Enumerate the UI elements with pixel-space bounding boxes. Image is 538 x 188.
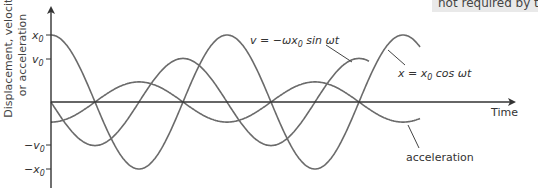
displacement-annotation: x = x0 cos ωt bbox=[388, 50, 472, 82]
acceleration-label: acceleration bbox=[406, 151, 474, 164]
displacement-equation: x = x0 cos ωt bbox=[397, 67, 472, 82]
tick-label-neg-v0: −v0 bbox=[24, 139, 45, 154]
displacement-leader-line bbox=[388, 50, 405, 65]
acceleration-annotation: acceleration bbox=[406, 125, 474, 164]
overlay-note: not required by t bbox=[432, 0, 538, 12]
tick-label-x0: x0 bbox=[31, 29, 44, 44]
velocity-equation: v = −ωx0 sin ωt bbox=[250, 34, 340, 49]
y-ticks bbox=[46, 35, 51, 169]
velocity-annotation: v = −ωx0 sin ωt bbox=[250, 34, 352, 62]
y-axis-label: Displacement, velocity or acceleration bbox=[2, 0, 29, 118]
velocity-leader-line bbox=[326, 45, 352, 62]
acceleration-leader-line bbox=[408, 125, 419, 148]
y-axis-label-line2: or acceleration bbox=[16, 14, 29, 97]
tick-label-neg-x0: −x0 bbox=[24, 163, 45, 178]
y-axis-label-line1: Displacement, velocity bbox=[2, 0, 15, 118]
x-axis-label: Time bbox=[490, 106, 518, 119]
tick-label-v0: v0 bbox=[32, 53, 44, 68]
